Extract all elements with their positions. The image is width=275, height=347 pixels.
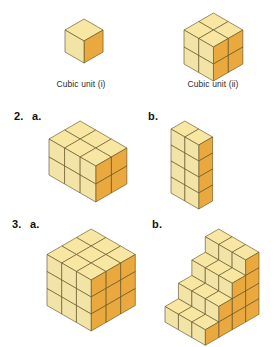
caption-cubic-unit-i: Cubic unit (i) [26,79,136,89]
caption-cubic-unit-ii: Cubic unit (ii) [158,79,268,89]
label-question-3: 3. [12,218,22,230]
figure-q2b-tower [168,118,216,212]
figure-cubic-unit-i [62,16,106,66]
label-question-2: 2. [14,110,24,122]
figure-q2a-prism [46,118,130,205]
figure-q3a-cube [44,226,138,334]
figure-q3b-staircase [162,226,262,347]
figure-cubic-unit-ii [181,10,246,84]
label-question-2a: a. [32,110,42,122]
label-question-3b: b. [152,218,162,230]
label-question-2b: b. [148,110,158,122]
label-question-3a: a. [30,218,40,230]
